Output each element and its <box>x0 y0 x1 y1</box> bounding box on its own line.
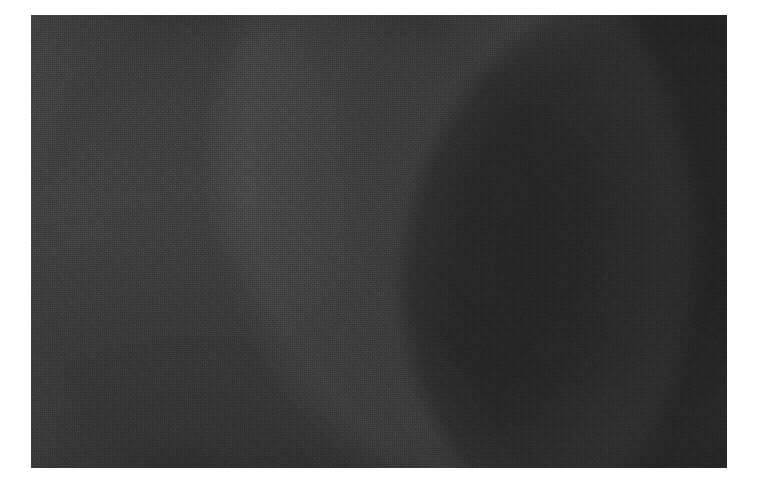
page-root <box>0 0 760 486</box>
photograph <box>31 15 727 468</box>
vignette-layer <box>31 15 727 468</box>
